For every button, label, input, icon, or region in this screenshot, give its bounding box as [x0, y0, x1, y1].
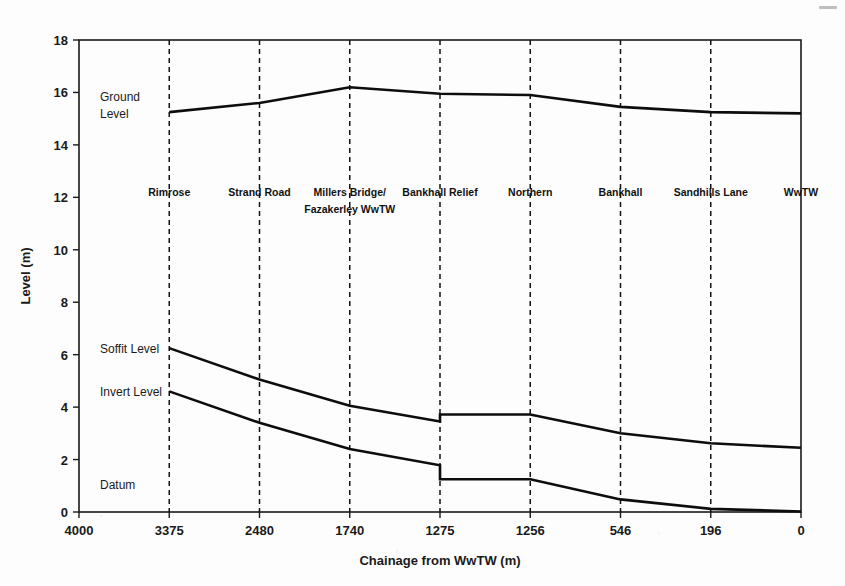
station-labels-group: RimroseStrand RoadMillers Bridge/Fazaker… [148, 186, 818, 215]
station-label-millers-bridge-fazakerley-wwtw: Fazakerley WwTW [304, 203, 395, 215]
station-label-sandhills-lane: Sandhills Lane [674, 186, 748, 198]
y-tick-label-18: 18 [54, 33, 68, 48]
station-label-bankhall: Bankhall [599, 186, 643, 198]
page-corner-mark [817, 2, 841, 16]
y-tick-label-4: 4 [61, 400, 69, 415]
station-label-northern: Northern [508, 186, 552, 198]
y-tick-label-10: 10 [54, 243, 68, 258]
x-tick-label-1740: 1740 [335, 523, 364, 538]
y-tick-label-2: 2 [61, 453, 68, 468]
y-tick-label-8: 8 [61, 295, 68, 310]
x-tick-label-0: 0 [797, 523, 804, 538]
chart-figure: 024681012141618 400033752480174012751256… [0, 0, 845, 586]
y-tick-label-16: 16 [54, 85, 68, 100]
x-tick-label-1256: 1256 [516, 523, 545, 538]
series-line-soffit-level [169, 348, 801, 448]
x-tick-label-2480: 2480 [245, 523, 274, 538]
x-tick-label-3375: 3375 [155, 523, 184, 538]
x-tick-label-1275: 1275 [426, 523, 455, 538]
series-label-ground-line1: Ground [100, 90, 140, 104]
long-section-profile-chart: 024681012141618 400033752480174012751256… [0, 0, 845, 586]
series-line-ground-level [169, 87, 801, 113]
y-tick-label-6: 6 [61, 348, 68, 363]
station-label-wwtw: WwTW [784, 186, 818, 198]
x-tick-label-196: 196 [700, 523, 722, 538]
x-axis-title: Chainage from WwTW (m) [359, 553, 520, 568]
y-axis-group: 024681012141618 [54, 33, 79, 520]
series-label-ground-line2: Level [100, 107, 129, 121]
gridlines-group [169, 40, 711, 512]
y-axis-title: Level (m) [18, 247, 33, 304]
x-tick-label-4000: 4000 [65, 523, 94, 538]
station-label-rimrose: Rimrose [148, 186, 190, 198]
x-axis-group: 4000337524801740127512565461960 [65, 512, 805, 538]
annotation-datum: Datum [100, 478, 135, 492]
x-tick-label-546: 546 [610, 523, 632, 538]
series-label-invert: Invert Level [100, 385, 162, 399]
station-label-bankhall-relief: Bankhall Relief [402, 186, 478, 198]
station-label-millers-bridge-fazakerley-wwtw: Millers Bridge/ [314, 186, 386, 198]
y-tick-label-14: 14 [54, 138, 69, 153]
y-tick-label-0: 0 [61, 505, 68, 520]
series-label-soffit: Soffit Level [100, 342, 159, 356]
series-group [169, 87, 801, 511]
series-line-invert-level [169, 391, 801, 511]
y-tick-label-12: 12 [54, 190, 68, 205]
station-label-strand-road: Strand Road [228, 186, 290, 198]
